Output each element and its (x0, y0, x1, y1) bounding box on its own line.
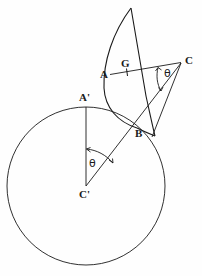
label-point-b: B (135, 128, 142, 139)
label-theta-lower: θ (89, 158, 96, 169)
label-theta-upper: θ (164, 68, 171, 79)
figure-canvas (0, 0, 202, 276)
tick-mark-g (127, 69, 128, 77)
angle-arc-theta-upper-arrow-top (156, 68, 162, 72)
geometry-figure: A G C B A' C' θ θ (0, 0, 202, 276)
lens-right-arc (131, 8, 155, 136)
segment-cprime-b (86, 63, 181, 186)
label-point-c-prime: C' (79, 189, 90, 200)
label-point-a-prime: A' (79, 92, 90, 103)
label-point-c: C (185, 55, 193, 66)
label-point-g: G (121, 58, 130, 69)
label-point-a: A (100, 69, 108, 80)
